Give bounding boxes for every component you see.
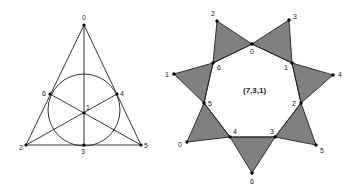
- point-label: 5: [320, 147, 324, 154]
- point-label: 2: [292, 100, 296, 107]
- point-label: 0: [82, 14, 86, 21]
- inner-point-3: [273, 135, 276, 138]
- point-label: 6: [42, 90, 46, 97]
- outer-point-2: [215, 19, 218, 22]
- diagram-canvas: 0123456 01234562345601(7,3,1): [0, 0, 360, 194]
- inner-point-5: [202, 101, 205, 104]
- point-5: [139, 143, 142, 146]
- point-label: 3: [293, 13, 297, 20]
- outer-point-5: [314, 143, 317, 146]
- point-label: 4: [233, 128, 237, 135]
- inner-point-4: [228, 135, 231, 138]
- point-label: 0: [250, 48, 254, 55]
- line-0-6-2: [26, 25, 84, 145]
- block-triangle: [174, 63, 213, 103]
- point-label: 5: [144, 142, 148, 149]
- line-5-1-6: [50, 94, 141, 145]
- block-triangle: [292, 63, 333, 103]
- point-4: [115, 92, 118, 95]
- point-6: [48, 92, 51, 95]
- design-title: (7,3,1): [243, 86, 266, 95]
- point-label: 0: [178, 141, 182, 148]
- fano-plane-diagram: 0123456: [19, 14, 148, 155]
- block-triangle: [213, 21, 252, 63]
- point-label: 1: [165, 71, 169, 78]
- point-0: [82, 23, 85, 26]
- point-label: 2: [211, 10, 215, 17]
- point-label: 6: [250, 178, 254, 185]
- heptagon-star-diagram: 01234562345601(7,3,1): [165, 10, 342, 185]
- block-triangle: [252, 20, 292, 63]
- inner-point-2: [299, 101, 302, 104]
- outer-point-3: [287, 18, 290, 21]
- point-1: [82, 111, 85, 114]
- line-2-1-4: [26, 94, 117, 145]
- point-label: 6: [217, 64, 221, 71]
- inner-point-0: [250, 42, 253, 45]
- point-label: 2: [19, 144, 23, 151]
- point-2: [24, 143, 27, 146]
- point-label: 3: [270, 128, 274, 135]
- point-label: 4: [120, 90, 124, 97]
- point-label: 3: [81, 148, 85, 155]
- block-triangle: [230, 137, 275, 173]
- outer-point-4: [331, 73, 334, 76]
- line-0-4-5: [84, 25, 141, 145]
- point-label: 4: [338, 71, 342, 78]
- outer-point-6: [250, 171, 253, 174]
- point-label: 1: [284, 64, 288, 71]
- point-label: 5: [208, 100, 212, 107]
- point-3: [82, 143, 85, 146]
- outer-point-0: [185, 140, 188, 143]
- point-label: 1: [86, 104, 90, 111]
- inner-point-6: [211, 61, 214, 64]
- inner-point-1: [290, 61, 293, 64]
- outer-point-1: [172, 72, 175, 75]
- block-triangle: [275, 103, 316, 145]
